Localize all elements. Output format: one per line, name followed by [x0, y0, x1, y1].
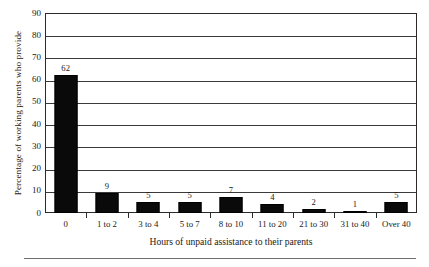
- x-axis-tick-label: 1 to 2: [97, 219, 117, 230]
- x-axis-tick-mark: [252, 213, 253, 218]
- y-axis-tick-label: 50: [13, 97, 41, 106]
- y-axis-title: Percentage of working parents who provid…: [13, 13, 23, 213]
- y-axis-tick-label: 40: [13, 120, 41, 129]
- gridline: [46, 103, 416, 104]
- x-axis-title: Hours of unpaid assistance to their pare…: [45, 236, 417, 247]
- gridline: [46, 192, 416, 193]
- y-axis-tick-label: 0: [13, 209, 41, 218]
- x-axis-tick-label: 8 to 10: [219, 219, 243, 230]
- x-axis-tick-marks: [45, 213, 417, 218]
- gridline: [46, 170, 416, 171]
- x-axis-tick-label: 11 to 20: [258, 219, 287, 230]
- x-axis-tick-mark: [169, 213, 170, 218]
- y-axis-tick-label: 60: [13, 75, 41, 84]
- x-axis-tick-label: 3 to 4: [138, 219, 158, 230]
- footer-divider: [24, 258, 416, 259]
- x-axis-tick-mark: [334, 213, 335, 218]
- y-axis-tick-label: 80: [13, 31, 41, 40]
- x-axis-tick-mark: [210, 213, 211, 218]
- x-axis-tick-mark: [376, 213, 377, 218]
- bar-chart-figure: Percentage of working parents who provid…: [0, 0, 429, 267]
- y-axis-tick-label: 30: [13, 142, 41, 151]
- x-axis-tick-mark: [128, 213, 129, 218]
- x-axis-tick-label: 21 to 30: [299, 219, 328, 230]
- gridline: [46, 81, 416, 82]
- y-axis-tick-label: 10: [13, 186, 41, 195]
- x-axis-tick-label: 0: [63, 219, 67, 230]
- x-axis-tick-label: 5 to 7: [180, 219, 200, 230]
- y-axis-tick-label: 90: [13, 9, 41, 18]
- x-axis-tick-label: 31 to 40: [341, 219, 370, 230]
- x-axis-tick-label: Over 40: [382, 219, 411, 230]
- x-axis-tick-mark: [293, 213, 294, 218]
- plot-area: [45, 13, 417, 213]
- gridline: [46, 147, 416, 148]
- gridline: [46, 58, 416, 59]
- y-axis-tick-label: 20: [13, 164, 41, 173]
- gridline: [46, 36, 416, 37]
- x-axis-tick-labels: 01 to 23 to 45 to 78 to 1011 to 2021 to …: [45, 219, 417, 233]
- y-axis-tick-label: 70: [13, 53, 41, 62]
- x-axis-tick-mark: [86, 213, 87, 218]
- gridline: [46, 125, 416, 126]
